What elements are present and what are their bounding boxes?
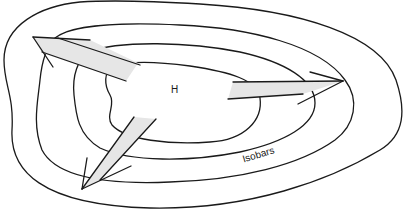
arrow-southwest-icon (82, 117, 156, 189)
isobar-outer (4, 1, 402, 208)
high-pressure-diagram: H Isobars (0, 0, 409, 222)
high-pressure-label: H (171, 84, 178, 95)
isobar-map (0, 0, 409, 222)
arrow-east-icon (228, 72, 343, 104)
arrow-northwest-icon (33, 37, 140, 81)
